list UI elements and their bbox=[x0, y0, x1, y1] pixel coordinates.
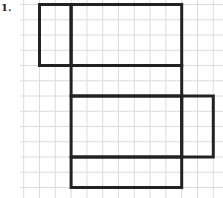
grid-diagram bbox=[0, 0, 223, 198]
grid-lines bbox=[20, 0, 223, 198]
